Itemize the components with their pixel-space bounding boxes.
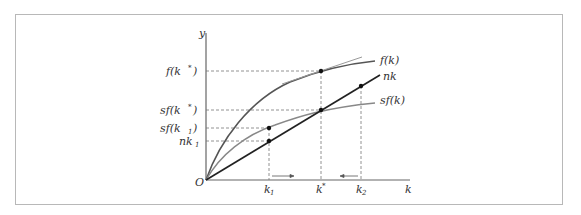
sf-curve-label: sf(k) [380, 94, 405, 107]
svg-text:f(k: f(k [165, 65, 181, 78]
y-axis-label: y [198, 27, 206, 40]
svg-text:nk: nk [179, 135, 193, 148]
svg-text:sf(k: sf(k [160, 104, 181, 117]
y-tick-sfkstar: sf(k * ) [160, 103, 197, 117]
direction-arrows [272, 175, 358, 178]
svg-text:*: * [322, 182, 326, 190]
svg-text:*: * [188, 64, 192, 72]
x-tick-k2: k 2 [356, 183, 367, 197]
svg-text:): ) [192, 122, 197, 135]
y-tick-fkstar: f(k * ) [165, 64, 197, 78]
f-curve-label: f(k) [379, 54, 399, 67]
sf-curve [206, 103, 375, 180]
guide-lines [206, 71, 361, 180]
x-tick-kstar: k * [316, 182, 326, 196]
origin-label: O [195, 176, 204, 189]
svg-text:sf(k: sf(k [160, 122, 181, 135]
y-tick-sfk1: sf(k 1 ) [160, 122, 197, 136]
svg-text:2: 2 [361, 189, 367, 197]
svg-text:1: 1 [270, 189, 274, 197]
solow-diagram: f(k) nk sf(k) y k O f(k * ) sf(k * ) sf(… [0, 0, 581, 215]
y-tick-nk1: nk 1 [179, 135, 199, 149]
x-tick-k1: k 1 [264, 183, 274, 197]
nk-line-label: nk [383, 70, 397, 83]
svg-text:): ) [192, 104, 197, 117]
svg-text:1: 1 [195, 141, 199, 149]
f-curve [206, 61, 375, 180]
svg-text:): ) [192, 65, 197, 78]
svg-text:*: * [188, 103, 192, 111]
nk-line [206, 75, 380, 180]
x-axis-label: k [405, 183, 412, 196]
